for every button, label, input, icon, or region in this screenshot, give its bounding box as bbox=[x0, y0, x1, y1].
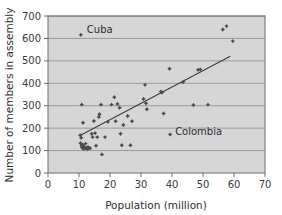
x-tick-label-30: 30 bbox=[135, 179, 148, 190]
x-tick-label-0: 0 bbox=[45, 179, 51, 190]
y-tick-label-300: 300 bbox=[22, 100, 41, 111]
x-axis-title: Population (million) bbox=[105, 199, 207, 211]
x-tick-label-70: 70 bbox=[259, 179, 272, 190]
y-axis-title: Number of members in assembly bbox=[3, 8, 15, 183]
annotation-label-colombia: Colombia bbox=[175, 126, 222, 137]
x-tick-label-20: 20 bbox=[104, 179, 117, 190]
chart-canvas: 0100200300400500600700 010203040506070 C… bbox=[0, 0, 282, 215]
scatter-plot-figure: 0100200300400500600700 010203040506070 C… bbox=[0, 0, 282, 215]
x-tick-label-10: 10 bbox=[73, 179, 86, 190]
x-axis-tick-labels: 010203040506070 bbox=[45, 179, 272, 190]
y-tick-label-500: 500 bbox=[22, 55, 41, 66]
y-tick-label-0: 0 bbox=[35, 168, 41, 179]
annotation-label-cuba: Cuba bbox=[87, 24, 113, 35]
y-axis-tick-labels: 0100200300400500600700 bbox=[22, 11, 41, 179]
x-tick-label-50: 50 bbox=[197, 179, 210, 190]
y-tick-label-200: 200 bbox=[22, 123, 41, 134]
x-tick-label-40: 40 bbox=[166, 179, 179, 190]
y-tick-label-700: 700 bbox=[22, 11, 41, 22]
x-tick-label-60: 60 bbox=[228, 179, 241, 190]
y-tick-label-600: 600 bbox=[22, 33, 41, 44]
y-tick-label-400: 400 bbox=[22, 78, 41, 89]
y-tick-label-100: 100 bbox=[22, 145, 41, 156]
